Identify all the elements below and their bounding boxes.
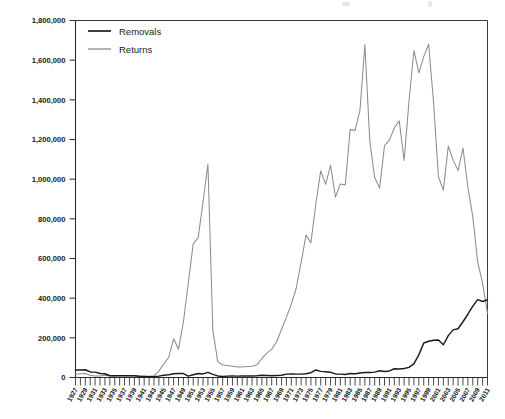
- y-tick-label: 400,000: [38, 294, 65, 303]
- legend-label-returns: Returns: [119, 44, 153, 55]
- y-tick-label: 200,000: [38, 334, 65, 343]
- y-tick-label: 1,000,000: [32, 175, 66, 184]
- y-tick-label: 1,600,000: [32, 56, 66, 65]
- y-tick-label: 600,000: [38, 254, 65, 263]
- chart-container: 0200,000400,000600,000800,0001,000,0001,…: [0, 0, 505, 419]
- y-tick-label: 1,400,000: [32, 96, 66, 105]
- scan-artifact: [428, 1, 432, 7]
- y-tick-label: 800,000: [38, 215, 65, 224]
- y-tick-label: 1,200,000: [32, 135, 66, 144]
- y-tick-label: 0: [61, 373, 65, 382]
- scan-artifact: [342, 2, 350, 6]
- legend-label-removals: Removals: [119, 26, 161, 37]
- line-chart: 0200,000400,000600,000800,0001,000,0001,…: [0, 0, 505, 419]
- y-tick-label: 1,800,000: [32, 16, 66, 25]
